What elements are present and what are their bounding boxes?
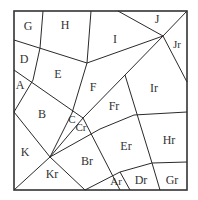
label-jr: Jr: [173, 38, 181, 50]
edge-j-jr: [163, 11, 187, 36]
label-kr: Kr: [46, 167, 59, 181]
label-f: F: [90, 80, 97, 94]
label-er: Er: [120, 139, 131, 153]
label-fr: Fr: [109, 99, 120, 113]
label-hr: Hr: [163, 133, 176, 147]
label-j: J: [155, 12, 160, 26]
label-cr: Cr: [76, 121, 87, 133]
edge-h-i-e-f: [72, 11, 91, 113]
label-dr: Dr: [135, 173, 148, 187]
label-i: I: [113, 32, 117, 46]
subdivision-diagram: G H I J Jr D E F Ir A B C Cr Fr Hr Er K …: [0, 0, 198, 200]
label-ir: Ir: [150, 81, 158, 95]
edge-fr-er-ir-hr: [100, 112, 187, 129]
label-h: H: [61, 18, 70, 32]
label-a: A: [16, 78, 25, 92]
label-d: D: [20, 52, 29, 66]
label-ar: Ar: [110, 175, 122, 187]
label-br: Br: [81, 154, 93, 168]
label-b: B: [38, 107, 46, 121]
edge-i-f: [87, 36, 163, 63]
edge-k-kr: [14, 157, 50, 190]
edge-main-diagonal: [50, 36, 163, 157]
label-gr: Gr: [166, 173, 179, 187]
edge-dr-gr: [152, 163, 160, 190]
label-g: G: [24, 19, 33, 33]
label-e: E: [54, 67, 61, 81]
label-k: K: [21, 145, 30, 159]
